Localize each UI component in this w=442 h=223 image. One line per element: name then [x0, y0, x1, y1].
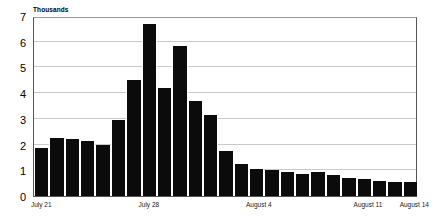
bar — [80, 141, 95, 196]
y-axis-tick-label: 2 — [20, 140, 26, 151]
bar — [357, 179, 372, 196]
y-axis-tick-label: 5 — [20, 63, 26, 74]
y-axis-tick-labels: 01234567 — [0, 0, 33, 223]
bar — [403, 182, 418, 196]
bar — [157, 88, 172, 196]
x-axis-tick-label: July 21 — [31, 201, 52, 208]
y-axis-title: Thousands — [33, 6, 69, 13]
bar — [172, 46, 187, 196]
y-axis-tick-label: 7 — [20, 12, 26, 23]
bar — [341, 178, 356, 196]
bar — [280, 172, 295, 196]
bar — [295, 174, 310, 196]
bar — [126, 80, 141, 196]
bar — [372, 181, 387, 196]
bar — [264, 170, 279, 196]
bar — [188, 101, 203, 196]
bar-series — [34, 18, 416, 196]
bar — [65, 139, 80, 196]
bar — [387, 182, 402, 196]
bar — [326, 175, 341, 196]
bar — [249, 169, 264, 196]
bar — [203, 115, 218, 196]
bar — [142, 24, 157, 196]
x-axis-tick-label: July 28 — [139, 201, 160, 208]
bar — [310, 172, 325, 196]
y-axis-tick-label: 6 — [20, 37, 26, 48]
y-axis-tick-label: 1 — [20, 166, 26, 177]
plot-area — [33, 17, 417, 197]
bar — [218, 151, 233, 196]
bar — [49, 138, 64, 196]
y-axis-tick-label: 4 — [20, 89, 26, 100]
bar — [234, 164, 249, 196]
x-axis-tick-label: August 11 — [354, 201, 383, 208]
bar — [95, 145, 110, 196]
bar — [111, 120, 126, 196]
bar — [34, 148, 49, 196]
y-axis-tick-label: 3 — [20, 114, 26, 125]
x-axis-tick-label: August 4 — [246, 201, 272, 208]
x-axis-tick-labels: July 21July 28August 4August 11August 14 — [0, 201, 442, 223]
bar-chart: Thousands 01234567 July 21July 28August … — [0, 0, 442, 223]
x-axis-tick-label: August 14 — [400, 201, 429, 208]
